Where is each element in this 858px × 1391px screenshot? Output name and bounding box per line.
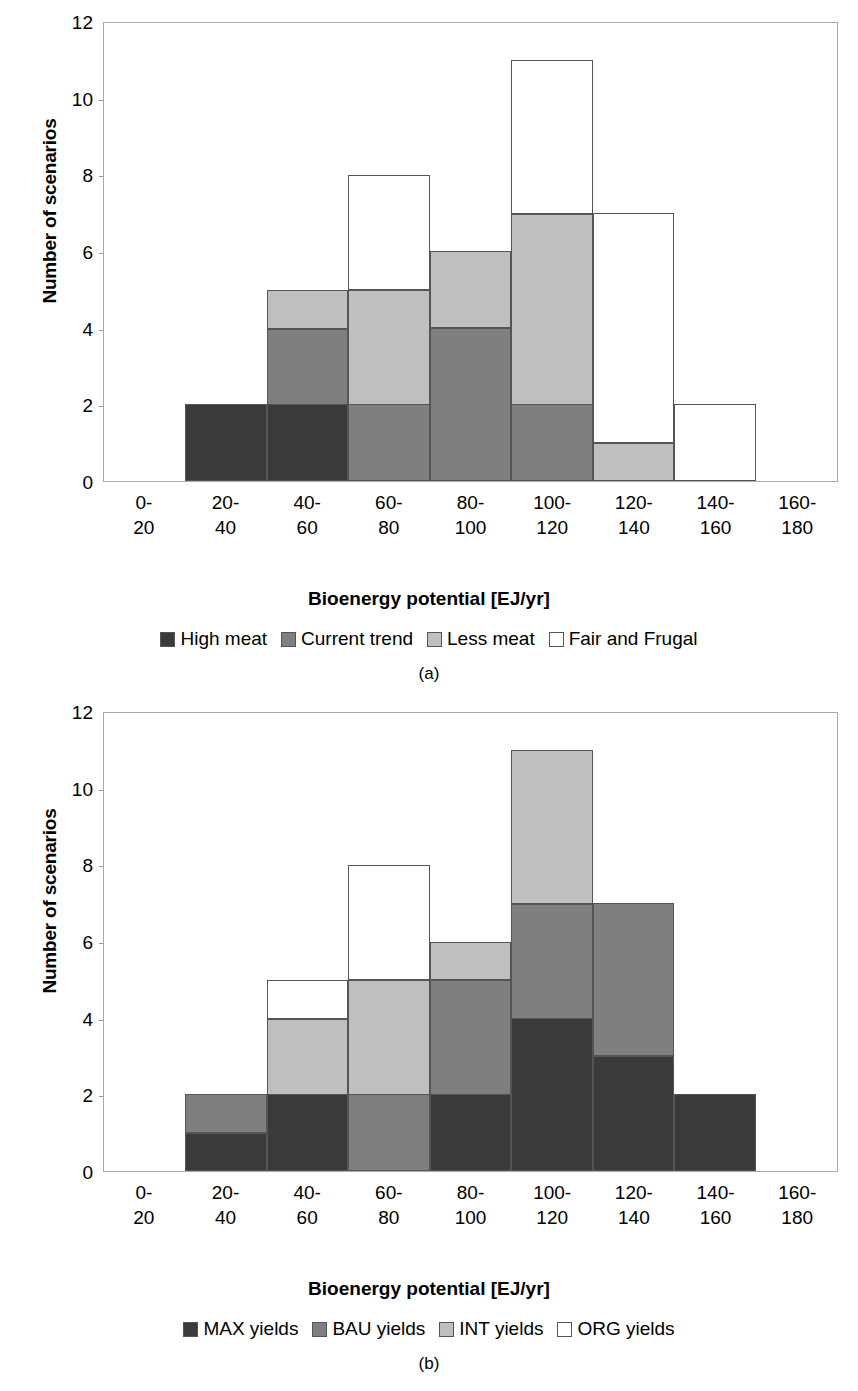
y-axis-tick-label: 12 xyxy=(55,12,93,34)
legend-swatch-icon xyxy=(427,632,442,647)
bar-segment xyxy=(267,404,348,481)
x-axis-tick-label: 60-80 xyxy=(348,490,430,540)
legend-swatch-icon xyxy=(160,632,175,647)
legend-swatch-icon xyxy=(312,1322,327,1337)
bar-stack xyxy=(185,23,266,481)
legend-item[interactable]: Fair and Frugal xyxy=(549,628,698,650)
bar-stack xyxy=(511,713,592,1171)
legend-item[interactable]: Less meat xyxy=(427,628,535,650)
x-axis-ticks-b: 0-2020-4040-6060-8080-100100-120120-1401… xyxy=(103,1180,838,1230)
legend-label: High meat xyxy=(180,628,267,650)
legend-item[interactable]: INT yields xyxy=(439,1318,543,1340)
y-axis-tick-label: 10 xyxy=(55,779,93,801)
bar-segment xyxy=(267,1019,348,1096)
bar-segment xyxy=(674,404,755,481)
legend-b: MAX yieldsBAU yieldsINT yieldsORG yields xyxy=(0,1318,858,1340)
legend-swatch-icon xyxy=(439,1322,454,1337)
bar-segment xyxy=(185,1094,266,1132)
plot-frame-a xyxy=(103,22,838,482)
legend-label: MAX yields xyxy=(203,1318,298,1340)
x-axis-tick-label: 0-20 xyxy=(103,1180,185,1230)
legend-item[interactable]: BAU yields xyxy=(312,1318,425,1340)
x-axis-tick-label: 160-180 xyxy=(756,490,838,540)
bar-stack xyxy=(104,713,185,1171)
bar-segment xyxy=(511,214,592,406)
bar-segment xyxy=(267,980,348,1018)
x-axis-tick-label: 140-160 xyxy=(675,490,757,540)
bar-stack xyxy=(593,23,674,481)
x-axis-tick-label: 40-60 xyxy=(266,1180,348,1230)
x-axis-tick-label: 0-20 xyxy=(103,490,185,540)
y-axis-tick-label: 4 xyxy=(55,319,93,341)
y-axis-tick-label: 0 xyxy=(55,1162,93,1184)
bar-segment xyxy=(511,1018,592,1171)
bar-segment xyxy=(267,329,348,406)
bar-segment xyxy=(593,903,674,1056)
x-axis-tick-label: 80-100 xyxy=(430,1180,512,1230)
figure-caption-a: (a) xyxy=(0,664,858,684)
bar-segment xyxy=(348,404,429,481)
x-axis-tick-label: 80-100 xyxy=(430,490,512,540)
plot-area-a: Number of scenarios 024681012 xyxy=(0,0,858,500)
x-axis-tick-label: 20-40 xyxy=(185,490,267,540)
figure-b: Number of scenarios 024681012 0-2020-404… xyxy=(0,690,858,1385)
x-axis-tick-label: 20-40 xyxy=(185,1180,267,1230)
bar-segment xyxy=(430,942,511,980)
legend-item[interactable]: Current trend xyxy=(281,628,413,650)
plot-frame-b xyxy=(103,712,838,1172)
y-axis-tick-label: 0 xyxy=(55,472,93,494)
y-axis-tick-label: 12 xyxy=(55,702,93,724)
legend-swatch-icon xyxy=(281,632,296,647)
x-axis-label-b: Bioenergy potential [EJ/yr] xyxy=(0,1278,858,1300)
bar-segment xyxy=(348,1094,429,1171)
bar-segment xyxy=(511,904,592,1019)
x-axis-tick-label: 160-180 xyxy=(756,1180,838,1230)
legend-label: BAU yields xyxy=(332,1318,425,1340)
bar-segment xyxy=(267,290,348,328)
y-axis-ticks-a: 024681012 xyxy=(55,22,93,482)
y-axis-ticks-b: 024681012 xyxy=(55,712,93,1172)
x-axis-tick-label: 100-120 xyxy=(511,490,593,540)
legend-item[interactable]: ORG yields xyxy=(557,1318,674,1340)
bar-stack xyxy=(674,713,755,1171)
bar-stack xyxy=(756,23,837,481)
y-axis-tick-label: 6 xyxy=(55,242,93,264)
bar-segment xyxy=(348,175,429,290)
legend-a: High meatCurrent trendLess meatFair and … xyxy=(0,628,858,650)
x-axis-tick-label: 100-120 xyxy=(511,1180,593,1230)
y-axis-tick-label: 6 xyxy=(55,932,93,954)
legend-label: Current trend xyxy=(301,628,413,650)
plot-area-b: Number of scenarios 024681012 xyxy=(0,690,858,1190)
bar-segment xyxy=(348,865,429,980)
y-axis-tick-label: 8 xyxy=(55,855,93,877)
bar-segment xyxy=(511,750,592,903)
figure-caption-b: (b) xyxy=(0,1354,858,1374)
y-axis-tick-label: 4 xyxy=(55,1009,93,1031)
legend-item[interactable]: High meat xyxy=(160,628,267,650)
bar-segment xyxy=(593,443,674,481)
bar-segment xyxy=(185,404,266,481)
legend-label: Less meat xyxy=(447,628,535,650)
bar-segment xyxy=(267,1094,348,1171)
bar-stack xyxy=(267,713,348,1171)
bar-segment xyxy=(593,1056,674,1171)
legend-swatch-icon xyxy=(549,632,564,647)
figure-a: Number of scenarios 024681012 0-2020-404… xyxy=(0,0,858,695)
bar-segment xyxy=(511,404,592,481)
legend-item[interactable]: MAX yields xyxy=(183,1318,298,1340)
bar-segment xyxy=(430,1094,511,1171)
legend-label: ORG yields xyxy=(577,1318,674,1340)
bar-stack xyxy=(348,713,429,1171)
bar-stack xyxy=(511,23,592,481)
y-axis-tick-label: 8 xyxy=(55,165,93,187)
x-axis-tick-label: 40-60 xyxy=(266,490,348,540)
bar-segment xyxy=(348,290,429,405)
bar-segment xyxy=(511,60,592,213)
bar-segment xyxy=(430,251,511,328)
y-axis-tick-label: 2 xyxy=(55,1085,93,1107)
bar-stack xyxy=(104,23,185,481)
legend-swatch-icon xyxy=(183,1322,198,1337)
legend-swatch-icon xyxy=(557,1322,572,1337)
bar-segment xyxy=(674,1094,755,1171)
x-axis-tick-label: 60-80 xyxy=(348,1180,430,1230)
